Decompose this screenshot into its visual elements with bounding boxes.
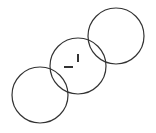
diagram-canvas [0,0,156,133]
circle-top-right [88,8,144,64]
circle-middle [50,38,106,94]
circle-bottom-left [12,67,68,123]
